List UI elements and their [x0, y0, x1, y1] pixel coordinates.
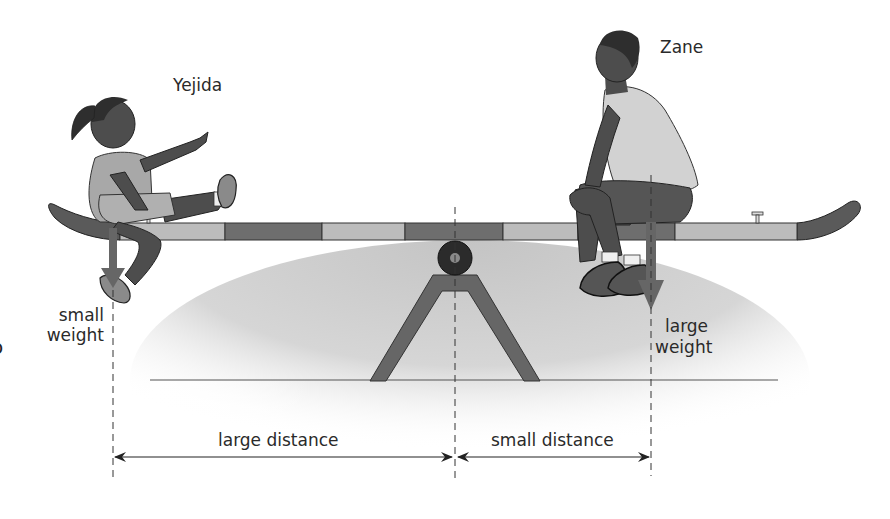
zane-figure [570, 31, 698, 297]
large-weight-label-line2: weight [655, 337, 712, 358]
seesaw-diagram: o Yejida Zane small weight large weight … [0, 0, 890, 519]
large-weight-label-line1: large [665, 316, 708, 337]
small-weight-label-line2: weight [36, 325, 104, 346]
small-distance-label: small distance [491, 430, 614, 451]
small-weight-label-line1: small [36, 305, 104, 326]
large-distance-label: large distance [218, 430, 339, 451]
cropped-glyph: o [0, 335, 3, 359]
handle-icon [752, 212, 763, 223]
yejida-label: Yejida [173, 75, 222, 96]
yejida-figure [72, 97, 237, 303]
zane-label: Zane [660, 37, 703, 58]
